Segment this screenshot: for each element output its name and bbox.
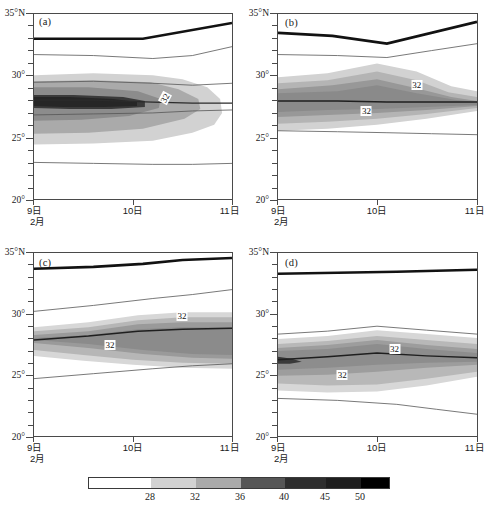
panel-b-ylabel-25: 25°	[256, 133, 269, 143]
panel-a-ytick-32	[28, 50, 33, 51]
panel-a-ytick-22	[28, 175, 33, 176]
colorbar-tick-label-40: 40	[279, 491, 289, 502]
panel-a-xsublabel: 2月	[30, 214, 45, 228]
panel-c-tag: (c)	[39, 257, 51, 268]
panel-c-ytick-35	[26, 252, 33, 253]
panel-d-ytick-26	[272, 363, 277, 364]
panel-c-ytick-34	[28, 264, 33, 265]
panel-b-ytick-24	[272, 150, 277, 151]
colorbar-segment-5	[326, 478, 361, 488]
panel-c-ylabel-25: 25°	[12, 370, 25, 380]
panel-d-ytick-24	[272, 388, 277, 389]
colorbar-tick-label-50: 50	[355, 491, 365, 502]
panel-a-ytick-30	[26, 75, 33, 76]
colorbar-segment-3	[241, 478, 285, 488]
panel-b-ylabel-20: 20°	[256, 195, 269, 205]
panel-a-ytick-21	[28, 188, 33, 189]
panel-a-ylabel-35: 35°N	[5, 8, 25, 18]
panel-d-xlabel-10: 10日	[367, 440, 388, 454]
panel-c-ytick-30	[26, 314, 33, 315]
panel-c-ylabel-30: 30°	[12, 309, 25, 319]
panel-a-xlabel-11: 11日	[220, 203, 240, 217]
panel-a-ylabel-30: 30°	[12, 70, 25, 80]
panel-c-ytick-23	[28, 400, 33, 401]
colorbar	[88, 477, 390, 489]
panel-b-ytick-33	[272, 38, 277, 39]
colorbar-segment-6	[361, 478, 389, 488]
colorbar-segment-4	[285, 478, 326, 488]
panel-a-ytick-31	[28, 63, 33, 64]
panel-b-contour-label-32-lower: 32	[361, 106, 372, 116]
panel-a-tag: (a)	[39, 16, 51, 27]
panel-c: (c) 35°N 30° 25° 20° 9日 2月 10日 11日 32 32	[33, 252, 233, 437]
panel-b-contour-shading	[278, 14, 477, 199]
panel-c-ytick-29	[28, 326, 33, 327]
panel-b-ytick-26	[272, 125, 277, 126]
panel-c-xlabel-11: 11日	[220, 440, 240, 454]
panel-d: (d) 35°N 30° 25° 20° 9日 2月 10日 11日 32 32	[277, 252, 478, 437]
colorbar-tick-label-28: 28	[145, 491, 155, 502]
panel-c-ytick-21	[28, 425, 33, 426]
panel-c-ytick-33	[28, 277, 33, 278]
panel-c-ytick-24	[28, 388, 33, 389]
colorbar-tick-label-36: 36	[235, 491, 245, 502]
panel-b-ytick-30	[270, 75, 277, 76]
panel-d-tag: (d)	[285, 257, 298, 268]
panel-a: (a) 35°N 30° 25° 20° 9日 2月 10日 11日 32	[33, 13, 233, 200]
panel-b-ytick-23	[272, 163, 277, 164]
panel-c-xsublabel: 2月	[30, 451, 45, 465]
colorbar-tick-label-32: 32	[190, 491, 200, 502]
panel-c-contour-label-32-upper: 32	[177, 311, 188, 321]
panel-b-ytick-27	[272, 113, 277, 114]
panel-c-contour-shading	[34, 253, 232, 436]
panel-b-ytick-28	[272, 100, 277, 101]
panel-d-ytick-31	[272, 301, 277, 302]
panel-c-ytick-26	[28, 363, 33, 364]
panel-a-ytick-23	[28, 163, 33, 164]
figure-canvas: (a) 35°N 30° 25° 20° 9日 2月 10日 11日 32	[0, 0, 492, 507]
panel-c-ytick-31	[28, 301, 33, 302]
panel-d-ytick-23	[272, 400, 277, 401]
panel-a-ytick-28	[28, 100, 33, 101]
panel-a-ytick-29	[28, 88, 33, 89]
panel-d-ytick-28	[272, 338, 277, 339]
panel-a-ytick-24	[28, 150, 33, 151]
panel-b-ytick-31	[272, 63, 277, 64]
panel-b-ytick-32	[272, 50, 277, 51]
panel-a-plot-frame	[33, 13, 233, 200]
panel-a-ytick-20	[26, 200, 33, 201]
panel-a-contour-shading	[34, 14, 232, 199]
panel-d-contour-label-32-lower: 32	[337, 370, 348, 380]
panel-a-ytick-33	[28, 38, 33, 39]
panel-c-contour-label-32-lower: 32	[105, 340, 116, 350]
panel-c-ytick-22	[28, 412, 33, 413]
panel-d-contour-label-32-upper: 32	[389, 344, 400, 354]
colorbar-segment-2	[196, 478, 241, 488]
panel-c-ytick-20	[26, 437, 33, 438]
panel-b-ytick-20	[270, 200, 277, 201]
panel-c-plot-frame	[33, 252, 233, 437]
panel-d-ytick-32	[272, 289, 277, 290]
panel-b-xlabel-10: 10日	[367, 203, 388, 217]
panel-d-ytick-34	[272, 264, 277, 265]
panel-c-ytick-27	[28, 351, 33, 352]
panel-b-ytick-34	[272, 25, 277, 26]
panel-b-ytick-21	[272, 188, 277, 189]
panel-d-ytick-35	[270, 252, 277, 253]
panel-b: (b) 35°N 30° 25° 20° 9日 2月 10日 11日 32 32	[277, 13, 478, 200]
panel-a-ytick-34	[28, 25, 33, 26]
colorbar-segment-0	[89, 478, 151, 488]
panel-a-xlabel-10: 10日	[123, 203, 144, 217]
colorbar-tick-label-45: 45	[320, 491, 330, 502]
panel-a-ylabel-20: 20°	[12, 195, 25, 205]
panel-d-ytick-22	[272, 412, 277, 413]
panel-b-tag: (b)	[285, 17, 298, 28]
panel-d-ylabel-35: 35°N	[249, 247, 269, 257]
panel-d-contour-shading	[278, 253, 477, 436]
panel-d-ytick-33	[272, 277, 277, 278]
panel-d-ylabel-25: 25°	[256, 370, 269, 380]
panel-d-ytick-21	[272, 425, 277, 426]
panel-b-ytick-29	[272, 88, 277, 89]
panel-d-ytick-30	[270, 314, 277, 315]
panel-d-plot-frame	[277, 252, 478, 437]
